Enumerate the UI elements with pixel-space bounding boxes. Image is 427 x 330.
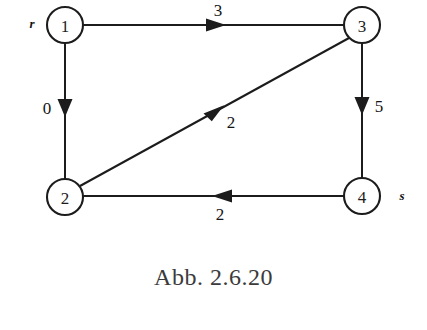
node-1-label: 1 [61, 17, 70, 36]
arrowhead-1-2-icon [58, 99, 73, 117]
arrowhead-1-3-icon [206, 19, 226, 32]
node-2[interactable]: 2 [47, 179, 83, 215]
arrowhead-4-2-icon [212, 190, 232, 203]
arrowhead-3-4-icon [355, 97, 370, 115]
node-3-label: 3 [358, 17, 367, 36]
edge-weight-3-4: 5 [375, 97, 384, 116]
node-2-label: 2 [61, 189, 70, 208]
figure-caption: Abb. 2.6.20 [0, 264, 427, 291]
node-3[interactable]: 3 [344, 7, 380, 43]
sink-label-s: s [398, 188, 404, 203]
node-1[interactable]: 1 [47, 7, 83, 43]
edge-weight-4-2: 2 [216, 205, 225, 224]
source-label-r: r [29, 16, 35, 31]
node-4-label: 4 [358, 188, 367, 207]
edge-weight-2-3: 2 [227, 113, 236, 132]
edge-weight-1-2: 0 [43, 99, 52, 118]
node-4[interactable]: 4 [344, 178, 380, 214]
edge-weight-1-3: 3 [214, 1, 223, 20]
arrowhead-2-3-icon [204, 105, 225, 121]
figure-root: 1 3 2 4 3 0 2 5 2 r [0, 0, 427, 330]
arrowheads-layer [58, 19, 370, 203]
